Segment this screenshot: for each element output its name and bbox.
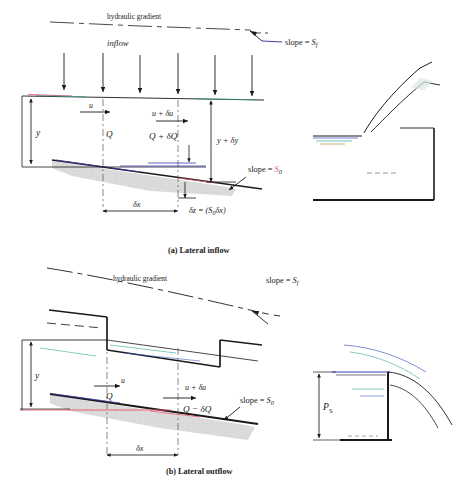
figure-lateral-inflow-outflow: hydraulic gradient slope = Sf inflow xyxy=(0,0,464,494)
velocity-u-du-label-a: u + δu xyxy=(152,109,173,118)
depth-y-dy-label-a: y + δy xyxy=(216,136,238,145)
hydraulic-gradient-label-b: hydraulic gradient xyxy=(113,274,168,283)
velocity-u-du-label-b: u + δu xyxy=(185,383,206,392)
figure-svg: hydraulic gradient slope = Sf inflow xyxy=(0,0,464,494)
discharge-q-dq-label-a: Q + δQ xyxy=(149,131,178,141)
velocity-u-label-a: u xyxy=(89,101,93,110)
discharge-q-label-a: Q xyxy=(106,129,113,139)
slope-s0-label-b: slope = S0 xyxy=(240,396,275,406)
slope-s0-label-a: slope = S0 xyxy=(248,165,283,175)
delta-x-label-a: δx xyxy=(133,200,141,209)
delta-x-label-b: δx xyxy=(136,444,144,453)
hydraulic-gradient-label-a: hydraulic gradient xyxy=(107,12,162,21)
velocity-u-label-b: u xyxy=(121,376,125,385)
panel-a-caption: (a) Lateral inflow xyxy=(168,246,229,255)
depth-y-label-b: y xyxy=(34,371,40,381)
slope-sf-label-a: slope = Sf xyxy=(285,38,319,48)
slope-sf-label-b: slope = Sf xyxy=(266,276,300,286)
discharge-q-label-b: Q xyxy=(106,391,113,401)
discharge-q-dq-label-b: Q − δQ xyxy=(183,404,212,414)
delta-z-label-a: δz = (S0δx) xyxy=(189,206,226,216)
inflow-label-a: inflow xyxy=(107,38,129,48)
panel-b-caption: (b) Lateral outflow xyxy=(166,467,232,476)
depth-y-label-a: y xyxy=(35,128,41,138)
